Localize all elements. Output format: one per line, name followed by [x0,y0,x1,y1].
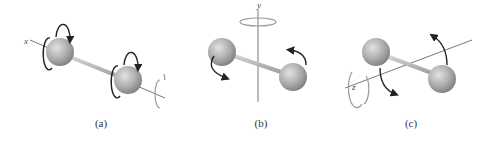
faint-rotation-arrow-icon [164,74,165,80]
rotation-arrow-icon [56,24,70,40]
sphere-left [362,38,390,66]
panel-label-a: (a) [86,117,116,129]
x-axis-label: x [23,36,28,46]
rotation-arrow-icon [290,50,306,65]
panel-label-c: (c) [396,117,426,129]
panel-b: y [208,0,307,102]
sphere-right [279,63,307,91]
sphere-right [428,65,456,93]
y-axis-label: y [256,0,261,10]
panel-label-b: (b) [246,117,276,129]
z-axis-label: z [351,82,356,92]
rotation-arrow-icon [124,52,138,68]
sphere-left [46,38,74,66]
rotation-arrow-icon [433,36,447,65]
sphere-right [114,66,142,94]
panel-a: x [23,24,165,108]
panel-c: z [345,36,472,108]
